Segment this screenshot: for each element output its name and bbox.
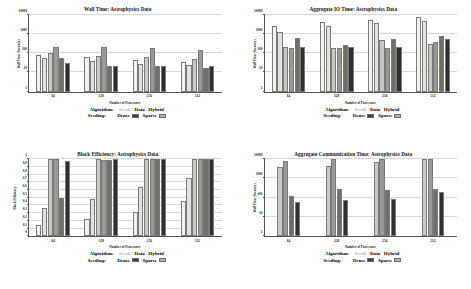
legend-row-seeding: Seeding:DenseSparse — [88, 258, 166, 263]
y-axis-label: Wall Time (Seconds) — [17, 39, 21, 68]
bar — [203, 68, 208, 92]
bar — [150, 159, 155, 236]
bar — [396, 47, 401, 92]
legend-label: Seeds — [355, 251, 367, 256]
bar — [331, 48, 336, 92]
legend-label: Seeds — [119, 107, 131, 112]
bar — [90, 199, 95, 236]
legend-row-algorithm: Algorithm:SeedsDataHybrid — [90, 251, 164, 256]
bar — [331, 159, 336, 236]
bar — [181, 201, 186, 236]
legend-entry-seeding[interactable]: Dense — [117, 258, 139, 263]
legend-label: Hybrid — [148, 107, 164, 112]
legend-label: Seeds — [119, 251, 131, 256]
bar — [53, 159, 58, 236]
legend: Algorithm:SeedsDataHybridSeeding:DenseSp… — [28, 251, 226, 263]
legend-label: Dense — [117, 113, 130, 118]
x-tick-label: 256 — [382, 239, 387, 243]
x-tick-label: 512 — [430, 94, 435, 98]
y-tick-label: 0.3 — [23, 207, 27, 211]
legend-entry-algorithm[interactable]: Seeds — [355, 251, 367, 256]
bar — [337, 189, 342, 237]
y-tick-label: 1 — [261, 86, 263, 90]
bar — [192, 59, 197, 91]
bar — [277, 167, 282, 236]
legend-heading-algorithm: Algorithm: — [90, 107, 116, 112]
plot-area-aggregate-communication-time: Wall Time (Seconds) 11010010001000064128… — [264, 159, 458, 237]
legend-row-algorithm: Algorithm:SeedsDataHybrid — [325, 107, 399, 112]
legend-entry-algorithm[interactable]: Seeds — [355, 107, 367, 112]
legend-entry-seeding[interactable]: Dense — [117, 113, 139, 118]
legend-entry-algorithm[interactable]: Data — [135, 107, 145, 112]
legend-entry-algorithm[interactable]: Data — [370, 107, 380, 112]
bar — [59, 198, 64, 237]
bar — [161, 159, 166, 236]
panel-block-efficiency: Block Efficiency: Astrophysics Data Bloc… — [0, 145, 236, 289]
y-tick-label: 1000 — [20, 28, 27, 32]
chart-title: Aggregate IO Time: Astrophysics Data — [236, 7, 471, 13]
bar-group: 64 — [36, 15, 70, 92]
chart-title: Aggregate Communication Time: Astrophysi… — [236, 152, 471, 158]
bar — [48, 159, 53, 236]
legend-entry-seeding[interactable]: Dense — [353, 258, 375, 263]
legend-swatch — [132, 114, 139, 118]
legend-entry-algorithm[interactable]: Hybrid — [148, 107, 164, 112]
legend-entry-seeding[interactable]: Sparse — [378, 113, 401, 118]
legend-entry-algorithm[interactable]: Seeds — [119, 107, 131, 112]
legend-label: Dense — [353, 258, 366, 263]
legend-row-seeding: Seeding:DenseSparse — [323, 113, 401, 118]
legend-entry-algorithm[interactable]: Seeds — [119, 251, 131, 256]
bar-groups: 64128256512 — [29, 15, 222, 92]
y-tick-label: 10000 — [254, 9, 262, 13]
bar — [133, 60, 138, 91]
legend-entry-algorithm[interactable]: Hybrid — [148, 251, 164, 256]
y-tick-label: 10 — [259, 211, 262, 215]
legend-row-seeding: Seeding:DenseSparse — [323, 258, 401, 263]
legend-label: Data — [135, 107, 145, 112]
bar-group: 256 — [374, 159, 396, 236]
legend-label: Sparse — [142, 113, 156, 118]
bar — [416, 17, 421, 92]
x-tick-label: 512 — [195, 94, 200, 98]
y-tick-label: 0.2 — [23, 215, 27, 219]
legend-entry-seeding[interactable]: Sparse — [142, 113, 165, 118]
legend-heading-algorithm: Algorithm: — [325, 251, 351, 256]
y-tick-label: 1000 — [256, 172, 263, 176]
y-axis-label: Wall Time (Seconds) — [252, 184, 256, 213]
legend-entry-seeding[interactable]: Sparse — [378, 258, 401, 263]
bar — [320, 22, 325, 92]
bar — [101, 47, 106, 91]
legend-heading-seeding: Seeding: — [88, 113, 114, 118]
legend-entry-algorithm[interactable]: Hybrid — [384, 107, 400, 112]
x-tick-label: 64 — [51, 239, 55, 243]
bar — [186, 65, 191, 92]
panel-wall-time: Wall Time: Astrophysics Data Wall Time (… — [0, 0, 236, 145]
legend-entry-seeding[interactable]: Sparse — [142, 258, 165, 263]
bar — [283, 161, 288, 237]
y-tick-label: 0.6 — [23, 184, 27, 188]
plot-canvas: 11010010001000064128256512 — [264, 15, 458, 93]
bar — [289, 48, 294, 92]
bar-group: 256 — [368, 15, 402, 92]
legend-entry-algorithm[interactable]: Data — [135, 251, 145, 256]
bar — [343, 45, 348, 92]
bar — [90, 61, 95, 92]
bar — [144, 57, 149, 92]
chart-title: Block Efficiency: Astrophysics Data — [0, 152, 236, 158]
legend-swatch — [394, 258, 401, 262]
bar — [209, 66, 214, 92]
legend-entry-algorithm[interactable]: Hybrid — [384, 251, 400, 256]
bar-group: 64 — [277, 159, 299, 236]
bar — [198, 159, 203, 236]
y-tick-label: 10 — [259, 66, 262, 70]
y-tick-label: 1000 — [256, 28, 263, 32]
x-tick-label: 64 — [287, 94, 291, 98]
x-tick-label: 128 — [334, 239, 339, 243]
bar — [433, 42, 438, 92]
legend: Algorithm:SeedsDataHybridSeeding:DenseSp… — [28, 107, 226, 119]
bar-group: 256 — [133, 159, 167, 236]
bar — [428, 159, 433, 236]
legend-entry-algorithm[interactable]: Data — [370, 251, 380, 256]
legend-entry-seeding[interactable]: Dense — [353, 113, 375, 118]
x-tick-label: 128 — [334, 94, 339, 98]
